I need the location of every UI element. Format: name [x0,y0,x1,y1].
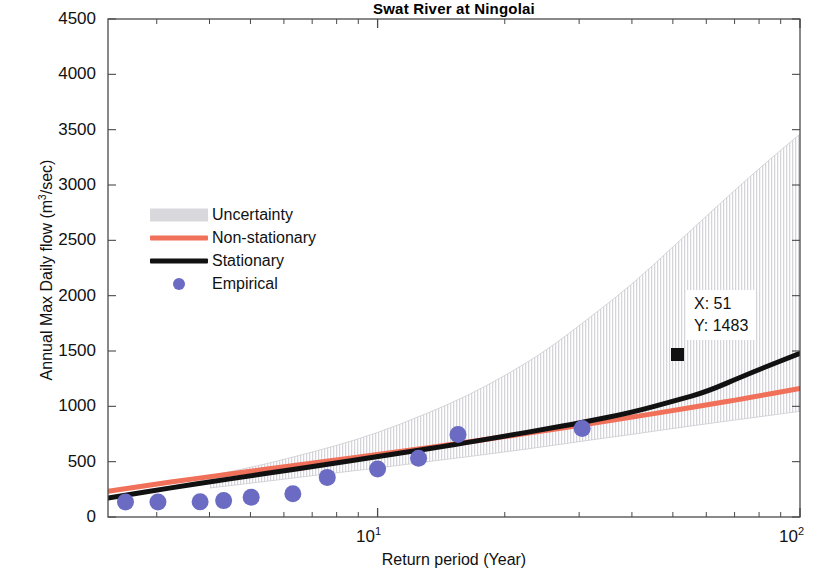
chart-figure: Swat River at Ningolai 05001000150020002… [0,0,818,577]
y-axis-label: Annual Max Daily flow (m3/sec) [38,10,56,530]
empirical-data-point [450,426,467,443]
empirical-data-point [149,493,166,510]
legend-item-empirical: Empirical [148,272,378,295]
legend-label-non-stationary: Non-stationary [210,229,316,247]
empirical-swatch [173,278,185,290]
datatip-marker [671,348,684,361]
legend-key-uncertainty [148,203,210,226]
legend-label-uncertainty: Uncertainty [210,206,293,224]
non-stationary-swatch [150,235,208,240]
empirical-data-point [369,460,386,477]
x-axis-tick-label-100: 102 [779,527,804,547]
legend-item-stationary: Stationary [148,249,378,272]
y-axis-label-main: Annual Max Daily flow (m [38,200,55,381]
stationary-swatch [150,258,208,263]
uncertainty-swatch [150,208,208,221]
empirical-data-point [319,469,336,486]
page-title: Swat River at Ningolai [108,0,800,17]
legend-label-empirical: Empirical [210,275,278,293]
legend-key-non-stationary [148,226,210,249]
y-axis-label-exponent: 3 [37,194,48,200]
empirical-data-point [574,420,591,437]
datatip: X: 51 Y: 1483 [686,290,756,340]
datatip-x: X: 51 [694,293,748,315]
legend: Uncertainty Non-stationary Stationary Em… [148,203,378,295]
plot-canvas [0,0,818,577]
legend-label-stationary: Stationary [210,252,284,270]
y-axis-label-tail: /sec) [38,160,55,195]
x-axis-label: Return period (Year) [108,551,800,569]
x-tick-base: 10 [779,527,798,546]
legend-key-stationary [148,249,210,272]
legend-item-uncertainty: Uncertainty [148,203,378,226]
empirical-data-point [243,489,260,506]
empirical-data-point [410,450,427,467]
datatip-y: Y: 1483 [694,315,748,337]
legend-item-non-stationary: Non-stationary [148,226,378,249]
empirical-data-point [192,493,209,510]
empirical-data-point [117,493,134,510]
x-tick-base: 10 [356,527,375,546]
x-tick-exponent: 2 [798,525,804,537]
x-axis-tick-label-10: 101 [356,527,381,547]
legend-key-empirical [148,272,210,295]
x-tick-exponent: 1 [375,525,381,537]
empirical-data-point [215,492,232,509]
empirical-data-point [284,485,301,502]
